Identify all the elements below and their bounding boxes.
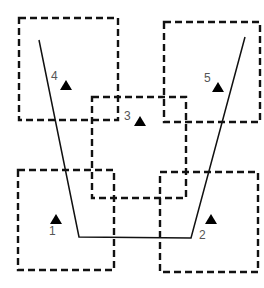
point-3: 3 (124, 109, 146, 126)
point-label: 5 (204, 71, 211, 85)
zone-box-5 (164, 22, 260, 122)
triangle-marker-icon (212, 82, 224, 92)
triangle-marker-icon (134, 116, 146, 126)
zone-box-1 (18, 170, 114, 270)
point-4: 4 (51, 69, 72, 90)
zone-diagram: 12345 (0, 0, 264, 288)
point-label: 3 (124, 109, 131, 123)
triangle-marker-icon (50, 214, 62, 224)
point-1: 1 (49, 214, 62, 238)
zone-box-4 (19, 18, 118, 120)
point-label: 2 (199, 228, 206, 242)
zone-box-3 (92, 97, 186, 198)
diagram-canvas: 12345 (0, 0, 264, 288)
point-label: 1 (49, 224, 56, 238)
point-label: 4 (51, 69, 58, 83)
point-2: 2 (199, 214, 217, 242)
triangle-marker-icon (60, 80, 72, 90)
route-polyline (39, 37, 245, 238)
triangle-marker-icon (205, 214, 217, 224)
point-5: 5 (204, 71, 224, 92)
